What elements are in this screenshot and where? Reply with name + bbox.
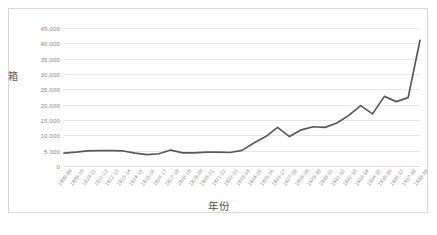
y-axis-title: 箱	[8, 72, 18, 82]
plot-area	[64, 28, 420, 166]
y-axis-tick-label: 0	[56, 163, 60, 170]
y-axis-tick-label: 20,000	[40, 101, 60, 108]
y-axis-tick-label: 10,000	[40, 132, 60, 139]
y-axis-tick-labels: 45,00040,00035,00030,00025,00020,00015,0…	[18, 28, 62, 166]
gridline	[64, 166, 420, 167]
x-axis-tick-labels: 1808-091809-101810-111811-121812-131813-…	[64, 168, 420, 198]
y-axis-tick-label: 5,000	[44, 147, 60, 154]
line-series	[64, 28, 420, 166]
x-axis-title: 年份	[0, 198, 437, 213]
y-axis-tick-label: 35,000	[40, 55, 60, 62]
y-axis-tick-label: 25,000	[40, 86, 60, 93]
line-series-path	[64, 40, 420, 154]
chart-figure: 箱 45,00040,00035,00030,00025,00020,00015…	[0, 0, 437, 235]
y-axis-tick-label: 15,000	[40, 117, 60, 124]
y-axis-tick-label: 45,000	[40, 25, 60, 32]
y-axis-tick-label: 30,000	[40, 71, 60, 78]
y-axis-tick-label: 40,000	[40, 40, 60, 47]
